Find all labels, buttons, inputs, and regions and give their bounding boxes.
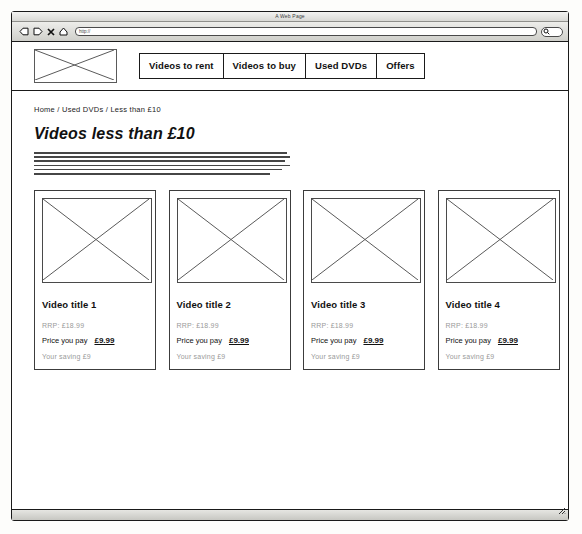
product-image-placeholder: [446, 198, 556, 283]
text-line: [34, 152, 287, 154]
product-rrp: RRP: £18.99: [311, 322, 417, 329]
product-card[interactable]: Video title 1 RRP: £18.99 Price you pay …: [34, 190, 156, 370]
product-saving: Your saving £9: [311, 353, 417, 360]
text-line: [34, 156, 290, 158]
search-icon: [543, 28, 550, 35]
price-label: Price you pay: [446, 336, 491, 345]
forward-arrow-icon[interactable]: [33, 27, 43, 36]
back-arrow-icon[interactable]: [19, 27, 29, 36]
product-price-link[interactable]: £9.99: [498, 336, 518, 345]
product-title: Video title 4: [446, 299, 552, 310]
product-title: Video title 1: [42, 299, 148, 310]
url-text: http://: [79, 28, 90, 36]
page-viewport: Videos to rent Videos to buy Used DVDs O…: [12, 42, 568, 509]
nav-item-videos-to-buy[interactable]: Videos to buy: [224, 54, 306, 78]
price-label: Price you pay: [311, 336, 356, 345]
text-line: [34, 165, 290, 167]
browser-toolbar: http://: [12, 22, 568, 42]
price-label: Price you pay: [177, 336, 222, 345]
placeholder-cross-icon: [312, 199, 418, 280]
product-image-placeholder: [42, 198, 152, 283]
product-saving: Your saving £9: [177, 353, 283, 360]
intro-paragraph: Lorem ipsum dolor sit amet, consectetur …: [34, 152, 290, 175]
product-image-placeholder: [311, 198, 421, 283]
product-rrp: RRP: £18.99: [42, 322, 148, 329]
window-title: A Web Page: [12, 11, 568, 21]
product-title: Video title 3: [311, 299, 417, 310]
product-price-link[interactable]: £9.99: [363, 336, 383, 345]
product-title: Video title 2: [177, 299, 283, 310]
nav-item-videos-to-rent[interactable]: Videos to rent: [140, 54, 224, 78]
resize-grip-icon[interactable]: [558, 501, 566, 519]
product-price-link[interactable]: £9.99: [94, 336, 114, 345]
placeholder-cross-icon: [35, 50, 114, 80]
nav-item-used-dvds[interactable]: Used DVDs: [306, 54, 377, 78]
product-price-row: Price you pay £9.99: [42, 336, 148, 345]
browser-titlebar: A Web Page: [12, 12, 568, 22]
product-saving: Your saving £9: [42, 353, 148, 360]
product-card[interactable]: Video title 4 RRP: £18.99 Price you pay …: [438, 190, 560, 370]
page-title: Videos less than £10: [34, 125, 546, 143]
main-navigation: Videos to rent Videos to buy Used DVDs O…: [139, 53, 425, 79]
stop-x-icon[interactable]: [47, 28, 55, 36]
text-line: [34, 173, 270, 175]
product-price-link[interactable]: £9.99: [229, 336, 249, 345]
logo-image-placeholder: [34, 49, 117, 83]
product-saving: Your saving £9: [446, 353, 552, 360]
browser-window: A Web Page http://: [11, 11, 569, 521]
browser-status-bar: [12, 509, 568, 520]
placeholder-cross-icon: [43, 199, 149, 280]
nav-item-offers[interactable]: Offers: [377, 54, 424, 78]
placeholder-cross-icon: [447, 199, 553, 280]
site-header: Videos to rent Videos to buy Used DVDs O…: [12, 42, 568, 91]
placeholder-cross-icon: [178, 199, 284, 280]
price-label: Price you pay: [42, 336, 87, 345]
product-card[interactable]: Video title 3 RRP: £18.99 Price you pay …: [303, 190, 425, 370]
url-bar[interactable]: http://: [75, 27, 537, 36]
text-line: [34, 169, 282, 171]
product-image-placeholder: [177, 198, 287, 283]
product-price-row: Price you pay £9.99: [177, 336, 283, 345]
product-rrp: RRP: £18.99: [177, 322, 283, 329]
breadcrumb[interactable]: Home / Used DVDs / Less than £10: [34, 105, 546, 114]
product-card[interactable]: Video title 2 RRP: £18.99 Price you pay …: [169, 190, 291, 370]
text-line: [34, 160, 285, 162]
browser-nav-icons: [19, 27, 68, 36]
product-price-row: Price you pay £9.99: [311, 336, 417, 345]
product-price-row: Price you pay £9.99: [446, 336, 552, 345]
page-content: Home / Used DVDs / Less than £10 Videos …: [12, 91, 568, 370]
browser-search-field[interactable]: [541, 27, 563, 37]
home-icon[interactable]: [59, 27, 68, 36]
product-grid: Video title 1 RRP: £18.99 Price you pay …: [34, 190, 546, 370]
product-rrp: RRP: £18.99: [446, 322, 552, 329]
